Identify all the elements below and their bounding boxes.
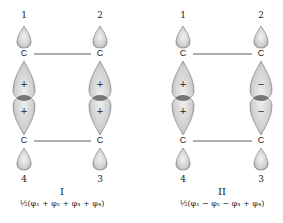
top-left-lobe	[17, 26, 31, 48]
carbon-label: C	[180, 135, 187, 145]
sign-left-lower: +	[179, 106, 187, 116]
sign-left-upper: +	[20, 79, 28, 89]
carbon-label: C	[97, 48, 104, 58]
wavefunction-formula: ½(φ₁ + φ₂ + φ₃ + φ₄)	[20, 199, 105, 208]
atom-number-2: 2	[258, 10, 264, 20]
right-pz-lobe	[89, 61, 111, 135]
sign-right-lower: −	[257, 106, 265, 116]
bottom-left-lobe	[17, 148, 31, 170]
left-pz-lobe	[13, 61, 35, 135]
atom-number-3: 3	[97, 174, 103, 184]
bottom-right-lobe	[254, 148, 268, 170]
top-left-lobe	[176, 26, 190, 48]
atom-number-4: 4	[21, 174, 27, 184]
atom-number-3: 3	[258, 174, 264, 184]
sign-left-lower: +	[20, 106, 28, 116]
atom-number-4: 4	[180, 174, 186, 184]
bottom-left-lobe	[176, 148, 190, 170]
carbon-label: C	[180, 48, 187, 58]
atom-number-1: 1	[180, 10, 186, 20]
top-right-lobe	[254, 26, 268, 48]
carbon-label: C	[97, 135, 104, 145]
carbon-label: C	[21, 48, 28, 58]
carbon-label: C	[21, 135, 28, 145]
sign-right-upper: +	[96, 79, 104, 89]
diagram-numeral: II	[218, 186, 226, 197]
atom-number-1: 1	[21, 10, 27, 20]
carbon-label: C	[258, 135, 265, 145]
left-pz-lobe	[172, 61, 194, 135]
sign-left-upper: +	[179, 79, 187, 89]
atom-number-2: 2	[97, 10, 103, 20]
right-pz-lobe	[250, 61, 272, 135]
bottom-right-lobe	[93, 148, 107, 170]
top-right-lobe	[93, 26, 107, 48]
wavefunction-formula: ½(φ₁ − φ₂ − φ₃ + φ₄)	[180, 199, 265, 208]
diagram-numeral: I	[60, 186, 64, 197]
sign-right-lower: +	[96, 106, 104, 116]
sign-right-upper: −	[257, 79, 265, 89]
orbital-diagram-canvas	[0, 0, 283, 223]
carbon-label: C	[258, 48, 265, 58]
